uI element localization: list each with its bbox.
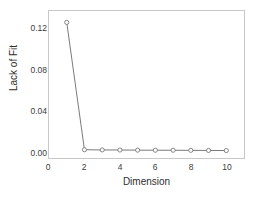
y-tick-label-3: 0.00 [7,149,47,158]
data-point [153,148,157,152]
data-point [206,148,210,152]
data-point [82,148,86,152]
data-line [67,22,227,150]
data-markers [65,20,229,152]
data-point [189,148,193,152]
x-tick-label-2: 4 [108,163,132,172]
scree-plot-figure: 0.12 0.08 0.04 0.00 0 2 4 6 8 10 Dimensi… [0,0,262,201]
plot-area [48,10,245,159]
x-tick-label-4: 8 [179,163,203,172]
data-point [100,148,104,152]
x-axis-title: Dimension [48,177,245,187]
plot-svg [49,11,244,158]
x-tick-label-3: 6 [143,163,167,172]
x-tick-label-1: 2 [72,163,96,172]
data-point [136,148,140,152]
x-tick-label-5: 10 [215,163,239,172]
data-point [171,148,175,152]
data-point [118,148,122,152]
x-tick-label-0: 0 [36,163,60,172]
data-point [224,148,228,152]
data-point [65,20,69,24]
y-axis-title: Lack of Fit [9,18,19,118]
